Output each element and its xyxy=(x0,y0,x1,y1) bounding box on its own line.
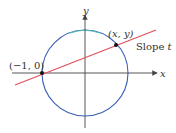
slope-label: Slope t xyxy=(136,41,173,52)
point-label-minus-one-zero: (−1, 0) xyxy=(9,60,44,71)
point-x-y xyxy=(114,43,118,47)
point-label-x-y: (x, y) xyxy=(108,28,134,39)
slope-word: Slope xyxy=(136,41,168,52)
unit-circle-diagram: y x (−1, 0) (x, y) Slope t xyxy=(0,0,176,133)
slope-var: t xyxy=(168,41,173,52)
point-minus-one-zero xyxy=(40,71,44,75)
slope-line xyxy=(15,30,156,85)
y-axis-label: y xyxy=(82,5,89,16)
x-axis-label: x xyxy=(160,68,166,79)
diagram-canvas: y x (−1, 0) (x, y) Slope t xyxy=(0,0,176,133)
